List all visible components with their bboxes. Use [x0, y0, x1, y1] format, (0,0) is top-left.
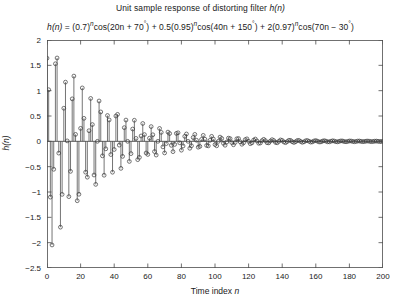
stem-plot-svg: [47, 40, 383, 268]
y-tick-label: 0.5: [11, 112, 41, 121]
y-tick-label: −0.5: [11, 162, 41, 171]
chart-title-text: Unit sample response of distorting filte…: [116, 3, 270, 13]
x-tick-label: 160: [301, 272, 331, 281]
x-tick-label: 80: [166, 272, 196, 281]
axis-ticks: [47, 40, 383, 268]
equation-term3-close: ): [351, 22, 354, 32]
chart-title: Unit sample response of distorting filte…: [0, 3, 401, 13]
x-tick-label: 200: [368, 272, 398, 281]
equation-term1-base: (0.7): [72, 22, 90, 32]
axis-box: [47, 40, 382, 267]
x-axis-label-variable: n: [234, 286, 239, 296]
x-axis-label-text: Time index: [191, 286, 235, 296]
plot-area: [47, 40, 383, 268]
equation-plus-2: +: [258, 22, 268, 32]
equation-term3-coef: 2(0.97): [267, 22, 294, 32]
chart-equation: h(n) = (0.7)ncos(20n + 70°) + 0.5(0.95)n…: [0, 20, 401, 32]
x-tick-label: 20: [66, 272, 96, 281]
y-tick-label: 1.5: [11, 61, 41, 70]
equation-plus-1: +: [149, 22, 159, 32]
y-tick-label: 0: [11, 137, 41, 146]
x-axis-label: Time index n: [47, 286, 383, 296]
y-tick-label: −2: [11, 238, 41, 247]
equation-term1-function: cos(20n + 70: [94, 22, 144, 32]
equation-term2-coef: 0.5(0.95): [159, 22, 193, 32]
equation-term3-function: cos(70n − 30: [298, 22, 348, 32]
x-tick-label: 100: [200, 272, 230, 281]
x-tick-label: 60: [133, 272, 163, 281]
equation-equals: =: [62, 22, 72, 32]
y-axis-label: h(n): [1, 123, 11, 163]
x-tick-label: 0: [32, 272, 62, 281]
stem-series: [47, 56, 383, 247]
x-tick-label: 180: [334, 272, 364, 281]
x-tick-label: 120: [234, 272, 264, 281]
y-tick-label: −1: [11, 188, 41, 197]
y-axis-label-text: h(n): [1, 135, 11, 150]
equation-lhs: h(n): [47, 22, 62, 32]
y-tick-label: −1.5: [11, 213, 41, 222]
y-tick-label: 1: [11, 86, 41, 95]
x-tick-label: 40: [99, 272, 129, 281]
equation-term2-function: cos(40n + 150: [197, 22, 252, 32]
figure-container: Unit sample response of distorting filte…: [0, 0, 401, 304]
y-tick-label: 2: [11, 36, 41, 45]
x-tick-label: 140: [267, 272, 297, 281]
chart-title-variable: h(n): [269, 3, 285, 13]
